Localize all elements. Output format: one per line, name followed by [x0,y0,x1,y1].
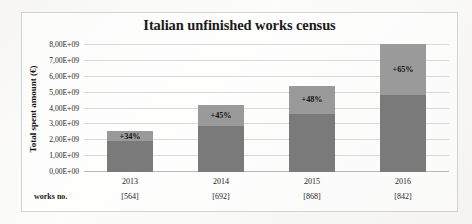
works-no-values: [564][692][868][842] [84,192,449,204]
works-no-value: [868] [289,192,335,201]
works-no-caption: works no. [34,192,67,201]
y-axis-tick-label: 5,00E+09 [49,87,79,96]
works-no-value: [564] [107,192,153,201]
works-no-value: [692] [198,192,244,201]
bar-segment-increase[interactable] [289,86,335,114]
y-axis-tick-label: 8,00E+09 [49,40,79,49]
y-axis-tick-label: 7,00E+09 [49,55,79,64]
y-axis-tick-label: 4,00E+09 [49,103,79,112]
y-axis-tick-label: 6,00E+09 [49,71,79,80]
bar-segment-base[interactable] [107,141,153,172]
bar-segment-increase[interactable] [198,105,244,126]
works-no-value: [842] [380,192,426,201]
y-axis-tick-label: 3,00E+09 [49,119,79,128]
chart-page: Italian unfinished works census Total sp… [0,0,472,224]
x-axis-label: 2013 [107,177,153,186]
x-axis-label: 2014 [198,177,244,186]
x-axis-label: 2015 [289,177,335,186]
bar-segment-increase[interactable] [380,44,426,94]
x-axis-labels: 2013201420152016 [84,177,449,189]
y-axis-title-text: Total spent amount (€) [28,65,38,152]
y-axis-tick-label: 1,00E+09 [49,151,79,160]
y-axis-tick-label: 0,00E+00 [49,167,79,176]
chart-title: Italian unfinished works census [21,17,458,34]
bar-segment-base[interactable] [380,95,426,172]
y-axis-tick-label: 2,00E+09 [49,135,79,144]
bar-segment-base[interactable] [198,126,244,173]
bar-segment-increase[interactable] [107,131,153,141]
bar-segment-base[interactable] [289,114,335,172]
plot-area: 0,00E+001,00E+092,00E+093,00E+094,00E+09… [84,45,449,172]
y-axis-title: Total spent amount (€) [26,45,40,172]
x-axis-label: 2016 [380,177,426,186]
